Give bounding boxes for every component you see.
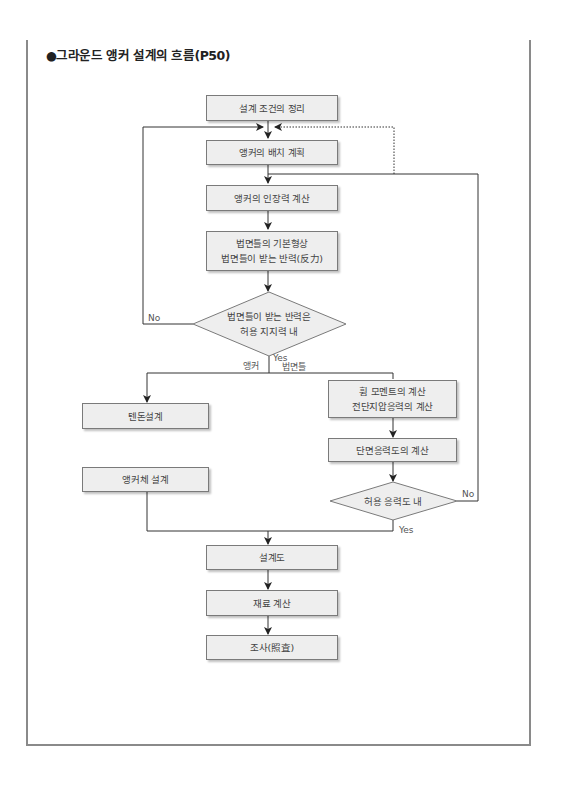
node-section-stress: 단면응력도의 계산 bbox=[328, 438, 457, 462]
node-design-drawing: 설계도 bbox=[206, 545, 338, 570]
node-label: 조사(照査) bbox=[250, 640, 294, 655]
node-label: 단면응력도의 계산 bbox=[356, 443, 428, 458]
decision1-line2: 허용 지지력 내 bbox=[240, 324, 298, 339]
decision1-text: 법면틀이 받는 반력은 허용 지지력 내 bbox=[200, 308, 338, 340]
node-anchor-body-design: 앵커체 설계 bbox=[82, 467, 209, 492]
label-no-right: No bbox=[462, 489, 474, 499]
node-material-calc: 재료 계산 bbox=[206, 590, 338, 616]
node-label: 설계 조건의 정리 bbox=[239, 101, 305, 116]
node-label: 설계도 bbox=[259, 550, 285, 565]
decision1-line1: 법면틀이 받는 반력은 bbox=[227, 309, 311, 324]
node-review: 조사(照査) bbox=[206, 635, 338, 660]
node-moment-calc: 휨 모멘트의 계산 전단지압응력의 계산 bbox=[328, 380, 457, 418]
node-label-line1: 휨 모멘트의 계산 bbox=[359, 384, 425, 399]
label-branch-anchor: 앵커 bbox=[243, 361, 259, 371]
node-label-line1: 법면틀의 기본형상 bbox=[236, 236, 308, 251]
node-label-line2: 전단지압응력의 계산 bbox=[352, 399, 433, 414]
node-label: 재료 계산 bbox=[253, 596, 291, 611]
node-label: 앵커의 인장력 계산 bbox=[234, 191, 309, 206]
node-anchor-layout: 앵커의 배치 계획 bbox=[206, 140, 338, 165]
node-anchor-tension: 앵커의 인장력 계산 bbox=[206, 185, 338, 211]
node-tendon-design: 텐돈설계 bbox=[82, 403, 209, 429]
node-label-line2: 법면틀이 받는 반력(反力) bbox=[221, 251, 322, 266]
decision2-text: 허용 응력도 내 bbox=[340, 493, 446, 509]
decision2-label: 허용 응력도 내 bbox=[364, 494, 422, 509]
label-branch-slope: 법면틀 bbox=[282, 362, 306, 372]
node-design-conditions: 설계 조건의 정리 bbox=[206, 95, 338, 121]
node-label: 앵커의 배치 계획 bbox=[239, 145, 305, 160]
label-no-left: No bbox=[148, 313, 160, 323]
node-label: 텐돈설계 bbox=[128, 409, 163, 424]
node-label: 앵커체 설계 bbox=[122, 472, 168, 487]
label-yes-right: Yes bbox=[399, 525, 414, 535]
node-slope-frame-shape: 법면틀의 기본형상 법면틀이 받는 반력(反力) bbox=[206, 231, 338, 271]
